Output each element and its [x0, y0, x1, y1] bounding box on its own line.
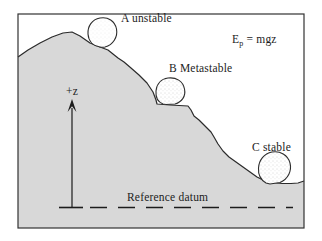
boulder-b: [156, 78, 185, 105]
boulder-a-label: A unstable: [121, 12, 172, 25]
boulder-c: [258, 152, 290, 184]
boulder-a: [88, 18, 117, 47]
potential-energy-equation: Ep = mgz: [232, 33, 277, 49]
z-axis-label: +z: [60, 85, 84, 98]
hillside-stability-diagram: A unstable Ep = mgz B Metastable +z C st…: [0, 0, 322, 241]
equation-rest: = mgz: [243, 33, 276, 45]
reference-datum-label: Reference datum: [127, 191, 208, 204]
boulder-b-label: B Metastable: [169, 62, 232, 75]
boulder-c-label: C stable: [252, 141, 291, 154]
